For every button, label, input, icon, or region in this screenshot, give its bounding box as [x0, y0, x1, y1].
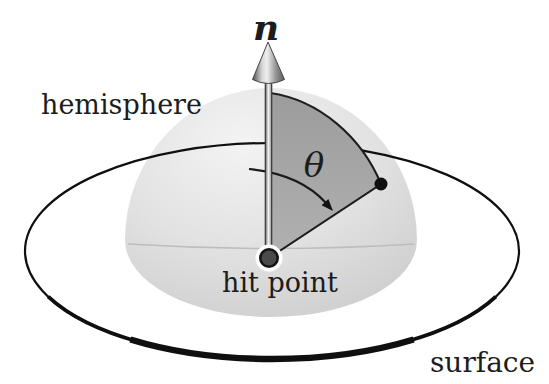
- diagram-canvas: n hemisphere θ hit point surface: [0, 0, 549, 384]
- normal-cone-icon: [253, 42, 285, 84]
- normal-shaft: [265, 76, 271, 258]
- surface-label: surface: [430, 346, 535, 379]
- hit-point-dot: [260, 249, 277, 266]
- surface-rim-bottom: [130, 340, 413, 360]
- hemisphere-diagram: n hemisphere θ hit point surface: [0, 0, 549, 384]
- sample-point-dot: [375, 178, 388, 191]
- normal-label: n: [253, 6, 279, 48]
- hemisphere-label: hemisphere: [41, 89, 202, 120]
- angle-label: θ: [304, 145, 324, 185]
- hit-point-label: hit point: [222, 267, 338, 298]
